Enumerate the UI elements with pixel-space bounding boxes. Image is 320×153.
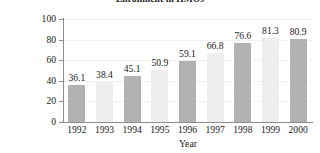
bar-value-label: 80.9	[281, 27, 315, 37]
chart-title: Enrollment in HMOs	[0, 0, 320, 5]
bar	[234, 43, 251, 122]
x-axis-line	[63, 122, 313, 123]
y-axis-tick-label: 60	[16, 55, 56, 65]
bar	[290, 39, 307, 122]
y-axis-tick-label: 0	[16, 117, 56, 127]
x-axis-title: Year	[63, 138, 313, 149]
y-axis-tick-label: 40	[16, 76, 56, 86]
bar	[124, 76, 141, 122]
bar-value-label: 66.8	[198, 41, 232, 51]
bar-value-label: 50.9	[143, 58, 177, 68]
bar	[179, 61, 196, 122]
bar	[207, 53, 224, 122]
y-axis-tick-label: 80	[16, 35, 56, 45]
bar	[68, 85, 85, 122]
y-axis-tick-label: 20	[16, 96, 56, 106]
bar-chart: Enrollment in HMOs Number of Americans E…	[0, 0, 320, 153]
x-axis-tick-label: 2000	[281, 125, 315, 135]
bar	[96, 82, 113, 122]
y-axis-tick-label: 100	[16, 14, 56, 24]
bar	[262, 38, 279, 122]
bar	[151, 70, 168, 122]
